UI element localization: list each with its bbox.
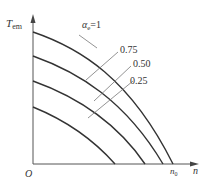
- n0-label: n0: [170, 166, 178, 177]
- leader-0.50: [94, 66, 131, 101]
- label-0.25: 0.25: [130, 75, 148, 86]
- origin-label: O: [25, 168, 32, 179]
- label-0.75: 0.75: [120, 44, 138, 55]
- curve-alpha-0.25: [33, 107, 115, 164]
- label-0.50: 0.50: [133, 58, 151, 69]
- leader-alpha-1: [79, 35, 97, 48]
- label-alpha-1: αe=1: [82, 19, 101, 32]
- curve-alpha-1: [33, 32, 173, 164]
- y-axis-label: Tem: [6, 17, 23, 31]
- leader-0.25: [88, 81, 133, 118]
- x-axis-label: n: [193, 165, 198, 176]
- leader-0.75: [86, 52, 118, 80]
- torque-speed-diagram: Tem αe=1 0.75 0.50 0.25 O n0 n: [0, 0, 215, 181]
- curves: [33, 32, 173, 164]
- curve-alpha-0.50: [33, 81, 145, 164]
- y-axis-arrow-icon: [31, 14, 36, 23]
